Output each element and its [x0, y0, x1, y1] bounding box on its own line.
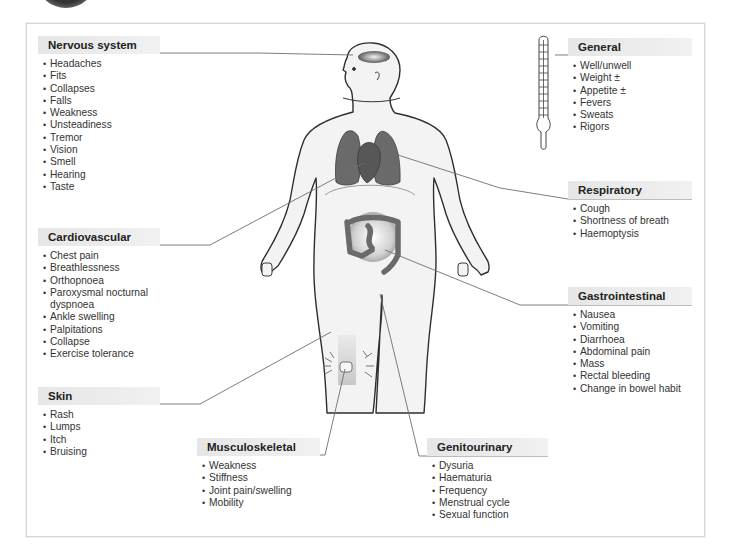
symptom-item: Joint pain/swelling [203, 485, 320, 497]
symptom-item: Weight ± [574, 72, 692, 84]
symptom-item: Mass [574, 358, 692, 370]
symptom-item: Taste [44, 181, 160, 193]
panel-title: Respiratory [568, 181, 692, 199]
symptom-item: Sexual function [433, 509, 548, 521]
symptom-list: Chest pain Breathlessness Orthopnoea Par… [38, 250, 160, 361]
symptom-list: Weakness Stiffness Joint pain/swelling M… [197, 460, 320, 509]
symptom-list: Headaches Fits Collapses Falls Weakness … [38, 58, 160, 193]
symptom-item: Mobility [203, 497, 320, 509]
symptom-list: Nausea Vomiting Diarrhoea Abdominal pain… [568, 309, 692, 395]
symptom-item: Tremor [44, 132, 160, 144]
symptom-list: Rash Lumps Itch Bruising [38, 409, 160, 458]
symptom-item: Stiffness [203, 472, 320, 484]
panel-title: Cardiovascular [38, 228, 160, 246]
thermometer-icon [537, 36, 550, 149]
symptom-item: Abdominal pain [574, 346, 692, 358]
panel-musculoskeletal: Musculoskeletal Weakness Stiffness Joint… [197, 438, 320, 509]
panel-genitourinary: Genitourinary Dysuria Haematuria Frequen… [427, 438, 548, 521]
panel-title: Nervous system [38, 36, 160, 54]
panel-title: Skin [38, 387, 160, 405]
symptom-item: Sweats [574, 109, 692, 121]
symptom-item: Dysuria [433, 460, 548, 472]
symptom-item: Ankle swelling [44, 311, 160, 323]
symptom-item: Lumps [44, 421, 160, 433]
panel-gastrointestinal: Gastrointestinal Nausea Vomiting Diarrho… [568, 287, 692, 395]
symptom-item: Menstrual cycle [433, 497, 548, 509]
symptom-item: Diarrhoea [574, 334, 692, 346]
panel-title: Gastrointestinal [568, 287, 692, 305]
panel-skin: Skin Rash Lumps Itch Bruising [38, 387, 160, 458]
symptom-item: Smell [44, 156, 160, 168]
symptom-list: Cough Shortness of breath Haemoptysis [568, 203, 692, 240]
symptom-item: Change in bowel habit [574, 383, 692, 395]
symptom-item: Fevers [574, 97, 692, 109]
symptom-item: Weakness [44, 107, 160, 119]
symptom-item: Shortness of breath [574, 215, 692, 227]
panel-title: Genitourinary [427, 438, 548, 456]
symptom-item: Breathlessness [44, 262, 160, 274]
symptom-item: Headaches [44, 58, 160, 70]
panel-title: General [568, 38, 692, 56]
symptom-list: Well/unwell Weight ± Appetite ± Fevers S… [568, 60, 692, 134]
symptom-item: Nausea [574, 309, 692, 321]
symptom-item: Cough [574, 203, 692, 215]
symptom-item: Well/unwell [574, 60, 692, 72]
symptom-item: Itch [44, 434, 160, 446]
symptom-item: Collapse [44, 336, 160, 348]
symptom-item: Fits [44, 70, 160, 82]
symptom-item: Haemoptysis [574, 228, 692, 240]
symptom-item: Palpitations [44, 324, 160, 336]
symptom-item: Chest pain [44, 250, 160, 262]
symptom-item: Orthopnoea [44, 275, 160, 287]
symptom-item: Vomiting [574, 321, 692, 333]
panel-cardiovascular: Cardiovascular Chest pain Breathlessness… [38, 228, 160, 361]
symptom-item: Rash [44, 409, 160, 421]
panel-respiratory: Respiratory Cough Shortness of breath Ha… [568, 181, 692, 240]
symptom-item: Rigors [574, 121, 692, 133]
symptom-text-continued: dyspnoea [50, 299, 160, 311]
symptom-item: Bruising [44, 446, 160, 458]
symptom-item: Appetite ± [574, 85, 692, 97]
panel-general: General Well/unwell Weight ± Appetite ± … [568, 38, 692, 134]
symptom-item: Vision [44, 144, 160, 156]
symptom-item: Haematuria [433, 472, 548, 484]
brain-highlight [358, 51, 390, 63]
symptom-item: Falls [44, 95, 160, 107]
symptom-item: Weakness [203, 460, 320, 472]
panel-title: Musculoskeletal [197, 438, 320, 456]
symptom-item: Hearing [44, 169, 160, 181]
symptom-item: Paroxysmal nocturnaldyspnoea [44, 287, 160, 312]
symptom-item: Rectal bleeding [574, 370, 692, 382]
symptom-list: Dysuria Haematuria Frequency Menstrual c… [427, 460, 548, 521]
symptom-item: Frequency [433, 485, 548, 497]
panel-nervous-system: Nervous system Headaches Fits Collapses … [38, 36, 160, 193]
symptom-item: Unsteadiness [44, 119, 160, 131]
symptom-text: Paroxysmal nocturnal [50, 287, 148, 298]
symptom-item: Collapses [44, 83, 160, 95]
symptom-item: Exercise tolerance [44, 348, 160, 360]
